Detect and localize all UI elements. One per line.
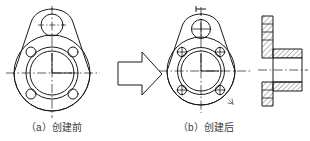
section-hub-upper [273, 49, 302, 58]
section-hub-lower [273, 82, 302, 91]
bolt-hole-bottom-left [26, 89, 36, 99]
bolt-hole-bottom-right [68, 89, 78, 99]
caption-row: （a）创建前 （b）创建后 [0, 120, 310, 141]
bolt-hole-top-left [26, 47, 36, 57]
caption-after: （b）创建后 [178, 120, 234, 136]
flange-section-drawing [252, 0, 310, 120]
bolt-hole-top-right [68, 47, 78, 57]
flange-section-svg [252, 0, 310, 120]
section-flange-lower [262, 82, 273, 106]
flange-before-svg [0, 0, 118, 120]
caption-before: （a）创建前 [26, 120, 82, 136]
section-flange-upper [262, 16, 273, 58]
leader-tick-mark [228, 99, 233, 104]
engineering-figure: （a）创建前 （b）创建后 [0, 0, 310, 141]
flange-after-svg [155, 0, 255, 120]
flange-before-drawing [0, 0, 118, 120]
flange-after-drawing [155, 0, 255, 120]
